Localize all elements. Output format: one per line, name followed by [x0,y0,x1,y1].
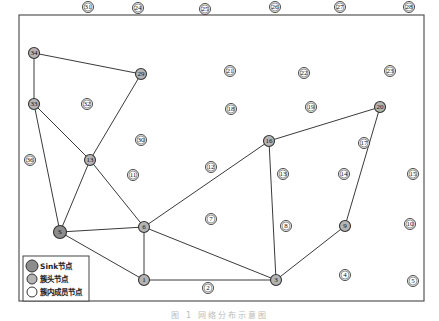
cluster-head-node-34: 34 [29,48,40,59]
legend-item-sink: Sink节点 [26,260,73,272]
svg-text:1: 1 [142,276,146,284]
cluster-head-node-13: 13 [85,155,96,166]
edge-9-3 [276,226,345,280]
svg-text:10: 10 [407,220,415,228]
edge-33-S [34,104,60,232]
member-node-12: 12 [206,162,217,173]
edge-S-6 [60,227,144,232]
svg-text:15: 15 [410,170,418,178]
cluster-head-node-29: 29 [136,69,147,80]
cluster-head-node-1: 1 [139,275,150,286]
svg-text:12: 12 [208,163,216,171]
svg-text:13: 13 [87,156,95,164]
edge-6-3 [144,227,276,280]
member-node-22: 22 [299,68,310,79]
svg-text:31: 31 [85,3,93,11]
network-diagram: S123456789101112131314151617181920212223… [0,0,439,321]
edge-6-16 [144,141,269,227]
member-node-7: 7 [206,214,217,225]
svg-text:25: 25 [202,5,210,13]
svg-text:11: 11 [130,171,137,179]
svg-text:7: 7 [209,215,213,223]
svg-text:18: 18 [228,105,236,113]
member-node-17: 17 [359,138,370,149]
figure-caption: 图 1 网络分布示意图 [0,309,439,320]
svg-text:26: 26 [272,3,280,11]
member-node-8: 8 [281,221,292,232]
svg-text:33: 33 [31,100,39,108]
cluster-head-node-9: 9 [340,221,351,232]
member-node-32: 32 [82,99,93,110]
member-node-25: 25 [200,4,211,15]
svg-text:13: 13 [280,170,288,178]
cluster-head-node-20: 20 [375,102,386,113]
edge-33-13a [34,104,90,160]
member-node-36: 36 [25,155,36,166]
member-node-24: 24 [133,3,144,14]
svg-text:22: 22 [301,69,309,77]
edge-34-29 [34,53,141,74]
member-node-26: 26 [270,2,281,13]
legend-item-member: 簇内成员节点 [27,287,83,297]
edge-16-3 [269,141,276,280]
cluster-head-node-16: 16 [264,136,275,147]
svg-text:27: 27 [337,3,345,11]
member-node-2: 2 [203,283,214,294]
cluster-head-node-3: 3 [271,275,282,286]
member-node-18: 18 [226,104,237,115]
node-layer: S123456789101112131314151617181920212223… [25,2,419,294]
svg-text:30: 30 [138,136,146,144]
member-node-14: 14 [339,169,350,180]
svg-text:21: 21 [227,67,235,75]
network-topology-canvas: S123456789101112131314151617181920212223… [0,0,439,321]
svg-text:簇内成员节点: 簇内成员节点 [39,287,83,297]
svg-text:17: 17 [361,139,369,147]
member-node-27: 27 [335,2,346,13]
svg-text:簇头节点: 簇头节点 [39,274,69,284]
sink-node: S [54,226,67,239]
member-node-10: 10 [405,219,416,230]
legend: Sink节点簇头节点簇内成员节点 [23,256,89,301]
svg-text:28: 28 [406,3,414,11]
member-node-31: 31 [83,2,94,13]
member-node-19: 19 [306,102,317,113]
svg-text:29: 29 [138,70,146,78]
edge-29-13a [90,74,141,160]
member-node-5: 5 [408,276,419,287]
svg-text:4: 4 [343,271,347,279]
svg-text:14: 14 [341,170,349,178]
svg-text:S: S [58,228,62,236]
svg-text:34: 34 [31,49,39,57]
member-node-23: 23 [385,66,396,77]
cluster-head-node-33: 33 [29,99,40,110]
svg-text:24: 24 [135,4,143,12]
cluster-head-node-6: 6 [139,222,150,233]
edge-20-9 [345,107,380,226]
member-node-13: 13 [278,169,289,180]
svg-text:9: 9 [343,222,347,230]
svg-text:5: 5 [411,277,415,285]
member-node-28: 28 [404,2,415,13]
edge-13a-S [60,160,90,232]
svg-text:23: 23 [387,67,395,75]
member-node-21: 21 [225,66,236,77]
edge-16-20 [269,107,380,141]
svg-text:Sink节点: Sink节点 [40,261,73,271]
svg-text:32: 32 [84,100,92,108]
svg-text:3: 3 [274,276,278,284]
member-node-4: 4 [340,270,351,281]
legend-item-head: 簇头节点 [27,274,69,284]
svg-text:19: 19 [308,103,316,111]
svg-text:8: 8 [284,222,288,230]
member-node-30: 30 [136,135,147,146]
member-node-11: 11 [128,170,139,181]
svg-text:6: 6 [142,223,146,231]
svg-text:2: 2 [206,284,210,292]
svg-text:36: 36 [27,156,35,164]
svg-text:16: 16 [266,137,274,145]
member-node-15: 15 [408,169,419,180]
svg-text:20: 20 [377,103,385,111]
